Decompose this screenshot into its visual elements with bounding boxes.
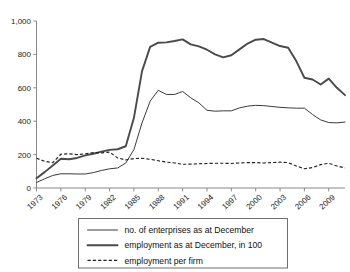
x-tick-label: 2000	[245, 193, 265, 212]
series-line-dashed	[37, 152, 346, 169]
y-tick-label: 800	[18, 50, 32, 59]
x-tick-label: 1988	[147, 193, 167, 212]
legend-item-label: employment as at December, in 100	[125, 240, 263, 250]
legend-item-label: no. of enterprises as at December	[125, 225, 255, 235]
x-tick-label: 2006	[293, 193, 313, 212]
y-tick-label: 600	[18, 84, 32, 93]
series-line-thick	[37, 39, 346, 178]
y-tick-label: 1,000	[11, 17, 32, 26]
x-tick-label: 1997	[220, 193, 240, 212]
x-tick-label: 1994	[196, 193, 216, 212]
line-chart: 02004006008001,000 197319761979198219851…	[0, 0, 350, 272]
x-tick-label: 2009	[318, 193, 338, 212]
y-tick-label: 400	[18, 117, 32, 126]
y-tick-label: 0	[27, 184, 32, 193]
y-tick-label: 200	[18, 151, 32, 160]
x-tick-label: 1982	[98, 193, 118, 212]
x-tick-label: 2003	[269, 193, 289, 212]
chart-series	[37, 39, 346, 182]
chart-container: 02004006008001,000 197319761979198219851…	[0, 0, 350, 272]
x-axis: 1973197619791982198519881991199419972000…	[25, 188, 345, 212]
x-tick-label: 1979	[74, 193, 94, 212]
x-tick-label: 1976	[50, 193, 70, 212]
legend-item-label: employment per firm	[125, 256, 203, 266]
y-axis: 02004006008001,000	[11, 17, 37, 193]
x-tick-label: 1973	[25, 193, 45, 212]
x-tick-label: 1991	[172, 193, 192, 212]
chart-legend: no. of enterprises as at Decemberemploym…	[79, 219, 288, 269]
series-line-thin	[37, 90, 346, 182]
x-tick-label: 1985	[123, 193, 143, 212]
